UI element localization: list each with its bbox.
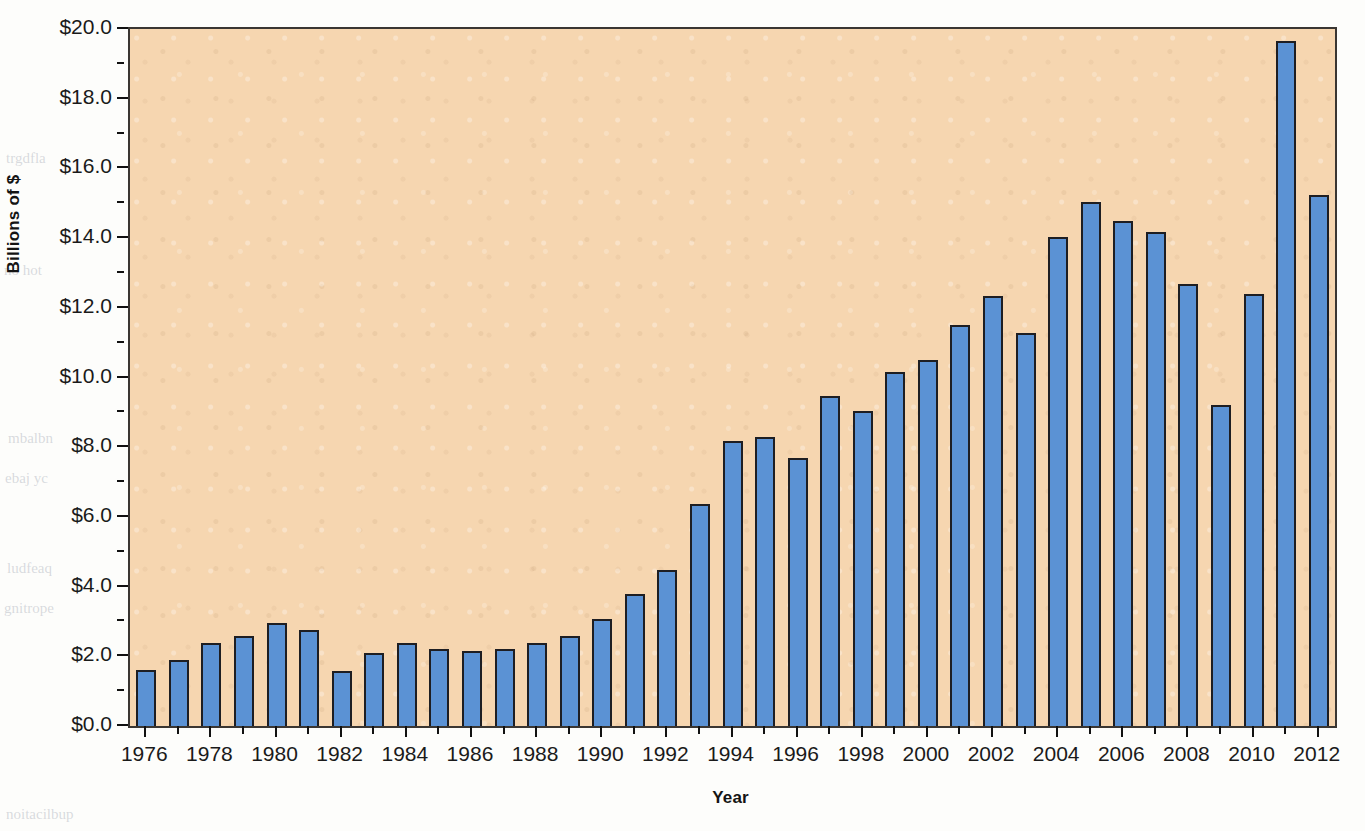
x-axis-tick-label: 2000 [903, 742, 950, 766]
bar-1998 [853, 411, 873, 726]
x-axis-tick-label: 2012 [1293, 742, 1340, 766]
x-axis-tick-mark [600, 726, 602, 737]
x-axis-tick-mark [1317, 726, 1319, 737]
y-axis-tick-mark [117, 515, 128, 517]
y-axis-tick-label: $14.0 [26, 224, 112, 248]
x-axis-tick-mark [535, 726, 537, 737]
bar-2004 [1048, 237, 1068, 726]
x-axis-tick-labels: 1976197819801982198419861988199019921994… [128, 742, 1337, 772]
y-axis-tick-label: $18.0 [26, 85, 112, 109]
y-axis-minor-tick-mark [117, 689, 124, 691]
x-axis-tick-label: 2002 [968, 742, 1015, 766]
x-axis-tick-marks [128, 726, 1337, 740]
y-axis-tick-label: $4.0 [26, 573, 112, 597]
x-axis-minor-tick-mark [828, 726, 830, 734]
plot-area [128, 27, 1337, 728]
bar-2008 [1178, 284, 1198, 726]
x-axis-minor-tick-mark [1154, 726, 1156, 734]
bar-1980 [267, 623, 287, 726]
bar-chart-figure: trgdfla no hot mbalbn ebaj yc ludfeaq gn… [0, 0, 1365, 831]
x-axis-tick-label: 1998 [837, 742, 884, 766]
bar-1981 [299, 630, 319, 726]
x-axis-tick-label: 2004 [1033, 742, 1080, 766]
bar-1976 [136, 670, 156, 726]
y-axis-tick-mark [117, 236, 128, 238]
y-axis-tick-label: $0.0 [26, 712, 112, 736]
x-axis-minor-tick-mark [1089, 726, 1091, 734]
bar-2011 [1276, 41, 1296, 726]
y-axis-tick-mark [117, 585, 128, 587]
x-axis-minor-tick-mark [307, 726, 309, 734]
y-axis-tick-mark [117, 166, 128, 168]
bar-1988 [527, 643, 547, 726]
x-axis-tick-mark [796, 726, 798, 737]
y-axis-tick-mark [117, 306, 128, 308]
x-axis-tick-label: 1982 [316, 742, 363, 766]
y-axis-tick-mark [117, 445, 128, 447]
bar-1995 [755, 437, 775, 726]
y-axis-minor-tick-mark [117, 341, 124, 343]
y-axis-minor-tick-mark [117, 480, 124, 482]
x-axis-minor-tick-mark [958, 726, 960, 734]
bar-2001 [950, 325, 970, 726]
bar-2000 [918, 360, 938, 726]
x-axis-tick-mark [991, 726, 993, 737]
bar-1987 [495, 649, 515, 726]
bar-1990 [592, 619, 612, 726]
y-axis-minor-tick-mark [117, 201, 124, 203]
y-axis-tick-label: $2.0 [26, 642, 112, 666]
bar-1977 [169, 660, 189, 726]
x-axis-tick-mark [144, 726, 146, 737]
bar-1984 [397, 643, 417, 726]
bar-1996 [788, 458, 808, 726]
x-axis-tick-label: 1976 [121, 742, 168, 766]
x-axis-minor-tick-mark [763, 726, 765, 734]
bar-1989 [560, 636, 580, 726]
x-axis-minor-tick-mark [503, 726, 505, 734]
bar-2009 [1211, 405, 1231, 726]
y-axis-tick-label: $16.0 [26, 154, 112, 178]
y-axis-tick-label: $12.0 [26, 294, 112, 318]
bar-2010 [1244, 294, 1264, 726]
x-axis-tick-mark [209, 726, 211, 737]
bar-2005 [1081, 202, 1101, 726]
x-axis-minor-tick-mark [633, 726, 635, 734]
x-axis-minor-tick-mark [1219, 726, 1221, 734]
x-axis-tick-label: 1980 [251, 742, 298, 766]
x-axis-minor-tick-mark [242, 726, 244, 734]
x-axis-tick-mark [340, 726, 342, 737]
x-axis-tick-mark [861, 726, 863, 737]
x-axis-tick-mark [1252, 726, 1254, 737]
bar-series [130, 29, 1335, 726]
x-axis-tick-mark [731, 726, 733, 737]
y-axis-minor-tick-mark [117, 132, 124, 134]
bar-2007 [1146, 232, 1166, 726]
y-axis-minor-tick-mark [117, 271, 124, 273]
x-axis-tick-label: 1996 [772, 742, 819, 766]
x-axis-tick-label: 1990 [577, 742, 624, 766]
x-axis-minor-tick-mark [698, 726, 700, 734]
x-axis-tick-label: 2006 [1098, 742, 1145, 766]
bar-1985 [429, 649, 449, 726]
y-axis-tick-mark [117, 724, 128, 726]
bar-1997 [820, 396, 840, 726]
bar-2002 [983, 296, 1003, 726]
bar-1982 [332, 671, 352, 726]
x-axis-tick-label: 1986 [447, 742, 494, 766]
x-axis-tick-mark [1056, 726, 1058, 737]
x-axis-tick-mark [1121, 726, 1123, 737]
y-axis-tick-label: $6.0 [26, 503, 112, 527]
x-axis-minor-tick-mark [177, 726, 179, 734]
bar-1999 [885, 372, 905, 726]
x-axis-tick-mark [405, 726, 407, 737]
x-axis-tick-label: 1994 [707, 742, 754, 766]
x-axis-tick-label: 2008 [1163, 742, 1210, 766]
x-axis-tick-label: 1978 [186, 742, 233, 766]
bar-1983 [364, 653, 384, 726]
x-axis-tick-label: 1988 [512, 742, 559, 766]
x-axis-minor-tick-mark [1284, 726, 1286, 734]
x-axis-tick-mark [470, 726, 472, 737]
x-axis-title: Year [128, 788, 1333, 808]
bar-1979 [234, 636, 254, 726]
bar-1993 [690, 504, 710, 726]
